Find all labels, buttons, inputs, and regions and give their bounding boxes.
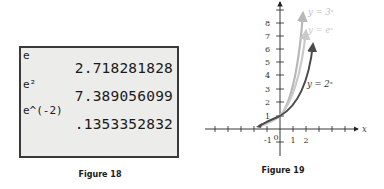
y-tick-7: 7 bbox=[265, 32, 270, 41]
x-tick-0: 0 bbox=[273, 133, 278, 142]
curve-left-arrow-icon bbox=[256, 123, 262, 128]
x-axis bbox=[205, 126, 358, 132]
calculator-screen: e 2.718281828 e² 7.389056099 e^(-2) .135… bbox=[19, 46, 179, 158]
curve-3-to-x bbox=[261, 13, 303, 126]
result-e-neg2: .1353352832 bbox=[75, 116, 173, 132]
x-axis-label: x bbox=[362, 124, 367, 134]
y-tick-8: 8 bbox=[265, 19, 270, 28]
result-e-squared: 7.389056099 bbox=[75, 88, 173, 104]
y-tick-2: 2 bbox=[265, 98, 270, 107]
x-tick-1: 1 bbox=[290, 136, 295, 145]
label-3-to-x: y = 3ˣ bbox=[307, 7, 334, 17]
y-tick-3: 3 bbox=[265, 85, 270, 94]
figure-19-caption: Figure 19 bbox=[262, 166, 305, 175]
x-tick-2: 2 bbox=[303, 136, 308, 145]
figure-18-caption: Figure 18 bbox=[79, 170, 122, 179]
result-e: 2.718281828 bbox=[75, 60, 173, 76]
y-tick-6: 6 bbox=[265, 45, 270, 54]
label-2-to-x: y = 2ˣ bbox=[306, 79, 333, 89]
expression-e-neg2: e^(-2) bbox=[23, 104, 63, 117]
expression-e-squared: e² bbox=[23, 78, 36, 91]
y-tick-4: 4 bbox=[265, 71, 270, 80]
label-e-to-x: y = eˣ bbox=[307, 25, 333, 35]
x-tick-neg1: -1 bbox=[264, 136, 272, 145]
exponential-graph: 1 2 3 4 5 6 7 8 -1 0 1 2 x y = 3ˣ y = eˣ… bbox=[192, 0, 384, 160]
expression-e: e bbox=[23, 49, 30, 62]
y-tick-5: 5 bbox=[265, 58, 270, 67]
